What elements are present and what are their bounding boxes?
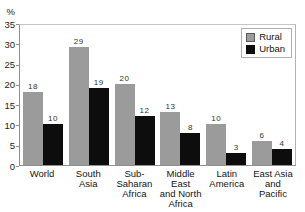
y-axis-unit-label: % [0,6,15,17]
barwrap-rural-sub-saharan-africa: 20 [115,74,135,165]
y-tick-mark [16,24,19,25]
x-tick-label-east-asia-and-pacific: East Asia and Pacific [250,169,296,209]
rural-swatch [246,33,255,42]
y-tick-label-10: 10 [0,120,15,131]
bar-urban-south-asia [89,88,109,165]
barwrap-urban-sub-saharan-africa: 12 [135,106,155,165]
barwrap-urban-south-asia: 19 [89,78,109,165]
value-label-rural-middle-east-and-north-africa: 13 [165,102,175,111]
barwrap-urban-world: 10 [43,114,63,165]
x-tick-label-south-asia: South Asia [65,169,111,209]
bar-urban-sub-saharan-africa [135,116,155,165]
legend-label-rural: Rural [259,32,282,42]
y-tick-mark [16,65,19,66]
value-label-urban-south-asia: 19 [94,78,104,87]
value-label-urban-sub-saharan-africa: 12 [140,106,150,115]
value-label-rural-latin-america: 10 [211,114,221,123]
legend-entry-rural: Rural [246,32,285,42]
legend-entry-urban: Urban [246,44,285,54]
y-tick-mark [16,105,19,106]
y-tick-label-30: 30 [0,39,15,50]
bar-rural-south-asia [69,47,89,165]
value-label-rural-south-asia: 29 [74,37,84,46]
x-tick-label-middle-east-and-north-africa: Middle East and North Africa [158,169,204,209]
value-label-urban-latin-america: 3 [234,143,239,152]
value-label-rural-sub-saharan-africa: 20 [120,74,130,83]
barwrap-rural-latin-america: 10 [206,114,226,165]
barwrap-rural-south-asia: 29 [69,37,89,165]
value-label-rural-east-asia-and-pacific: 6 [260,131,265,140]
barwrap-rural-middle-east-and-north-africa: 13 [160,102,180,165]
y-tick-label-15: 15 [0,100,15,111]
bar-chart: % 18102919201213810364 Rural Urban World… [0,0,305,212]
y-tick-label-0: 0 [0,161,15,172]
barwrap-urban-middle-east-and-north-africa: 8 [180,123,200,165]
bar-rural-east-asia-and-pacific [252,141,272,165]
bar-urban-latin-america [226,153,246,165]
y-tick-label-5: 5 [0,140,15,151]
bar-group-middle-east-and-north-africa: 138 [157,25,203,165]
bar-rural-world [23,92,43,165]
value-label-rural-world: 18 [28,82,38,91]
bar-urban-east-asia-and-pacific [272,149,292,165]
barwrap-rural-east-asia-and-pacific: 6 [252,131,272,165]
barwrap-rural-world: 18 [23,82,43,165]
bar-rural-latin-america [206,124,226,165]
legend: Rural Urban [241,28,292,58]
value-label-urban-world: 10 [48,114,58,123]
y-tick-label-35: 35 [0,19,15,30]
y-tick-label-20: 20 [0,79,15,90]
y-tick-mark [16,125,19,126]
legend-label-urban: Urban [259,44,285,54]
bar-urban-world [43,124,63,165]
bar-rural-sub-saharan-africa [115,84,135,165]
bar-group-world: 1810 [20,25,66,165]
urban-swatch [246,45,255,54]
y-tick-mark [16,44,19,45]
x-tick-label-sub-saharan-africa: Sub- Saharan Africa [111,169,157,209]
x-tick-label-world: World [19,169,65,209]
bar-group-sub-saharan-africa: 2012 [112,25,158,165]
y-tick-mark [16,85,19,86]
bar-urban-middle-east-and-north-africa [180,133,200,165]
plot-area: 18102919201213810364 Rural Urban [19,24,296,166]
bar-rural-middle-east-and-north-africa [160,112,180,165]
value-label-urban-middle-east-and-north-africa: 8 [188,123,193,132]
x-tick-label-latin-america: Latin America [204,169,250,209]
value-label-urban-east-asia-and-pacific: 4 [280,139,285,148]
barwrap-urban-latin-america: 3 [226,143,246,165]
y-tick-label-25: 25 [0,59,15,70]
barwrap-urban-east-asia-and-pacific: 4 [272,139,292,165]
y-tick-mark [16,166,19,167]
x-axis-labels: WorldSouth AsiaSub- Saharan AfricaMiddle… [19,169,296,209]
y-tick-mark [16,146,19,147]
bar-group-south-asia: 2919 [66,25,112,165]
